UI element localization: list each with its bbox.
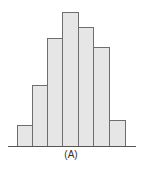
histogram-bar: [78, 27, 94, 147]
histogram-bar: [62, 12, 79, 147]
histogram-bar: [47, 38, 63, 147]
histogram-bar: [32, 85, 48, 147]
histogram-chart: (A): [0, 0, 142, 169]
x-axis-line: [8, 146, 136, 147]
histogram-bar: [17, 125, 33, 147]
chart-caption: (A): [51, 149, 91, 160]
histogram-bar: [109, 120, 126, 147]
histogram-bar: [93, 47, 110, 147]
